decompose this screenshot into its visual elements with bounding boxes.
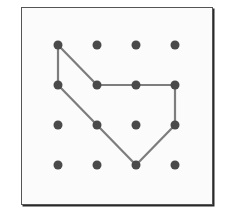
peg-dot (93, 41, 102, 50)
peg-dot (93, 81, 102, 90)
peg-dot (132, 81, 141, 90)
peg-dot (54, 81, 63, 90)
peg-dot (93, 161, 102, 170)
peg-dot (171, 81, 180, 90)
peg-dot (171, 161, 180, 170)
polygon-shape (58, 45, 175, 165)
peg-dot (132, 41, 141, 50)
peg-dot (54, 41, 63, 50)
peg-dot (171, 121, 180, 130)
peg-dot (93, 121, 102, 130)
peg-dot (171, 41, 180, 50)
peg-dot (54, 161, 63, 170)
peg-dot (132, 121, 141, 130)
peg-dot (132, 161, 141, 170)
geoboard-diagram (0, 0, 227, 220)
peg-dot (54, 121, 63, 130)
